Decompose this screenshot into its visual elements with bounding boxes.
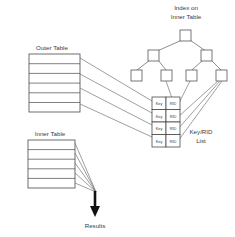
tree-internal-node-right [201, 50, 212, 61]
tree-leaf-node-4 [216, 70, 227, 81]
results-label: Results [85, 222, 106, 229]
keyrid-cell-key-label: Key [156, 139, 163, 144]
inner-table-body [28, 140, 75, 188]
keyrid-cell-rid-label: RID [170, 139, 177, 144]
keyrid-cell-rid-label: RID [170, 126, 177, 131]
tree-root-node [180, 30, 191, 41]
inner-table: Inner Table [28, 130, 75, 188]
tree-leaf-node-2 [161, 70, 172, 81]
keyrid-cell-rid-label: RID [170, 114, 177, 119]
diagram-canvas: Index on Inner Table [0, 0, 235, 237]
keyrid-cell-key-label: Key [156, 114, 163, 119]
keyrid-cell-key-label: Key [156, 126, 163, 131]
inner-table-label: Inner Table [35, 130, 66, 137]
tree-internal-node-left [148, 50, 159, 61]
tree-leaf-node-3 [186, 70, 197, 81]
inner-to-results-connectors [75, 143, 96, 192]
results-arrow: Results [85, 191, 106, 229]
index-title-line2: Inner Table [171, 13, 202, 20]
keyrid-list-label-line1: Key/RID [189, 128, 213, 135]
keyrid-cell-key-label: Key [156, 101, 163, 106]
tree-nodes [131, 30, 227, 81]
index-title-line1: Index on [174, 4, 198, 11]
outer-table: Outer Table [29, 44, 80, 112]
outer-table-label: Outer Table [36, 44, 68, 51]
keyrid-list-label-line2: List [196, 137, 206, 144]
tree-leaf-node-1 [131, 70, 142, 81]
keyrid-cell-rid-label: RID [170, 101, 177, 106]
join-index-diagram: Index on Inner Table [0, 0, 235, 237]
index-title: Index on Inner Table [171, 4, 202, 20]
results-arrow-head [90, 206, 100, 217]
keyrid-list: Key RID Key RID Key RID Key RID Key/RID … [152, 97, 213, 147]
